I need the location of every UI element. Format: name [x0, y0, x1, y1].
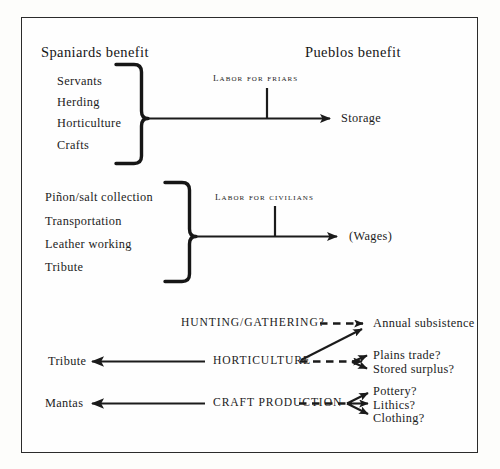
list-item-herding: Herding [57, 96, 100, 108]
list-item-pinon-salt-collection: Piñon/salt collection [45, 191, 153, 203]
source-label-mantas: Mantas [45, 397, 83, 409]
flow-label-horticulture: HORTICULTURE [213, 355, 311, 367]
source-label-tribute: Tribute [48, 355, 86, 367]
outcome-lithics: Lithics? [373, 399, 425, 413]
list-item-tribute: Tribute [45, 261, 83, 273]
list-item-servants: Servants [57, 75, 102, 87]
outcome-group-horticulture: Plains trade? Stored surplus? [373, 349, 454, 376]
flow-label-labor-for-civilians: LABOR FOR CIVILIANS [215, 190, 314, 203]
outcome-wages: (Wages) [349, 230, 392, 242]
flow-label-hunting-gathering: HUNTING/GATHERING? [181, 317, 325, 329]
outcome-storage: Storage [341, 112, 381, 124]
flow-label-labor-for-friars: LABOR FOR FRIARS [213, 71, 298, 84]
outcome-stored-surplus: Stored surplus? [373, 363, 454, 377]
outcome-clothing: Clothing? [373, 412, 425, 426]
heading-pueblos-benefit: Pueblos benefit [305, 45, 401, 60]
outcome-group-craft-production: Pottery? Lithics? Clothing? [373, 385, 425, 426]
outcome-plains-trade: Plains trade? [373, 349, 454, 363]
flow-label-craft-production: CRAFT PRODUCTION [213, 397, 342, 409]
heading-spaniards-benefit: Spaniards benefit [41, 45, 149, 60]
outcome-pottery: Pottery? [373, 385, 425, 399]
list-item-leather-working: Leather working [45, 238, 132, 250]
outcome-annual-subsistence: Annual subsistence [373, 317, 475, 329]
list-item-transportation: Transportation [45, 215, 122, 227]
list-item-crafts: Crafts [57, 139, 89, 151]
figure-canvas: Annual subsistence ======= --> fan =====… [0, 0, 500, 469]
list-item-horticulture: Horticulture [57, 117, 121, 129]
